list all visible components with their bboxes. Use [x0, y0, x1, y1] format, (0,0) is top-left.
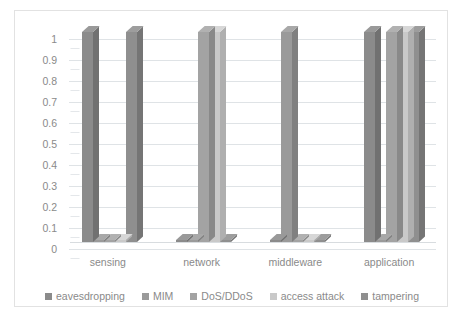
bar — [104, 240, 115, 242]
bar — [386, 32, 397, 242]
y-axis-tick-label: 0.8 — [23, 76, 57, 87]
bar — [198, 32, 209, 242]
bar-face — [176, 240, 187, 242]
legend-item-label: access attack — [281, 291, 345, 302]
x-axis-category-label: network — [155, 255, 249, 269]
y-axis-tick-label: 0.4 — [23, 160, 57, 171]
legend-swatch-icon — [270, 293, 277, 300]
bar — [176, 240, 187, 242]
bar — [281, 32, 292, 242]
legend-item-label: MIM — [153, 291, 173, 302]
bar — [126, 32, 137, 242]
y-axis-tick-label: 0.6 — [23, 118, 57, 129]
legend-item-label: tampering — [372, 291, 419, 302]
bar-group — [61, 39, 155, 252]
bar-side — [220, 27, 226, 242]
x-axis-category-label: application — [342, 255, 436, 269]
bar-side — [408, 27, 414, 242]
legend-item-label: DoS/DDoS — [201, 291, 252, 302]
bar-face — [82, 32, 93, 242]
x-axis: sensingnetworkmiddlewareapplication — [61, 255, 436, 271]
bar-side — [419, 27, 425, 242]
legend-item-label: eavesdropping — [56, 291, 125, 302]
bar-side — [209, 27, 215, 242]
bar-face — [93, 240, 104, 242]
bar-face — [281, 32, 292, 242]
bar-face — [115, 240, 126, 242]
y-axis-tick-label: 1 — [23, 34, 57, 45]
bar-side — [137, 27, 143, 242]
legend-item[interactable]: access attack — [270, 291, 345, 302]
y-axis: 10.90.80.70.60.50.40.30.20.10 — [19, 39, 57, 249]
x-axis-category-label: middleware — [249, 255, 343, 269]
bar-side — [292, 27, 298, 242]
bar-series-container — [61, 39, 436, 252]
legend-item[interactable]: DoS/DDoS — [190, 291, 252, 302]
bar — [270, 240, 281, 242]
bar-face — [364, 32, 375, 242]
chart-legend: eavesdroppingMIMDoS/DDoSaccess attacktam… — [29, 287, 435, 305]
x-axis-category-label: sensing — [61, 255, 155, 269]
bar — [93, 240, 104, 242]
bar-face — [198, 32, 209, 242]
legend-item[interactable]: MIM — [142, 291, 173, 302]
bar-side — [375, 27, 381, 242]
bar-group — [249, 39, 343, 252]
bar-side — [397, 27, 403, 242]
y-axis-tick-label: 0.7 — [23, 97, 57, 108]
legend-swatch-icon — [361, 293, 368, 300]
legend-swatch-icon — [190, 293, 197, 300]
bar-side — [93, 27, 99, 242]
bar-face — [270, 240, 281, 242]
y-axis-tick-label: 0 — [23, 244, 57, 255]
bar-group — [342, 39, 436, 252]
bar-face — [386, 32, 397, 242]
legend-swatch-icon — [45, 293, 52, 300]
bar — [82, 32, 93, 242]
bar-group — [155, 39, 249, 252]
y-axis-tick-label: 0.3 — [23, 181, 57, 192]
y-axis-tick-label: 0.2 — [23, 202, 57, 213]
legend-item[interactable]: eavesdropping — [45, 291, 125, 302]
legend-item[interactable]: tampering — [361, 291, 419, 302]
bar — [115, 240, 126, 242]
bar-face — [104, 240, 115, 242]
legend-swatch-icon — [142, 293, 149, 300]
chart-frame: 10.90.80.70.60.50.40.30.20.10 sensingnet… — [14, 10, 448, 307]
bar-face — [126, 32, 137, 242]
y-axis-tick-label: 0.1 — [23, 223, 57, 234]
y-axis-tick-label: 0.9 — [23, 55, 57, 66]
bar — [364, 32, 375, 242]
y-axis-tick-label: 0.5 — [23, 139, 57, 150]
